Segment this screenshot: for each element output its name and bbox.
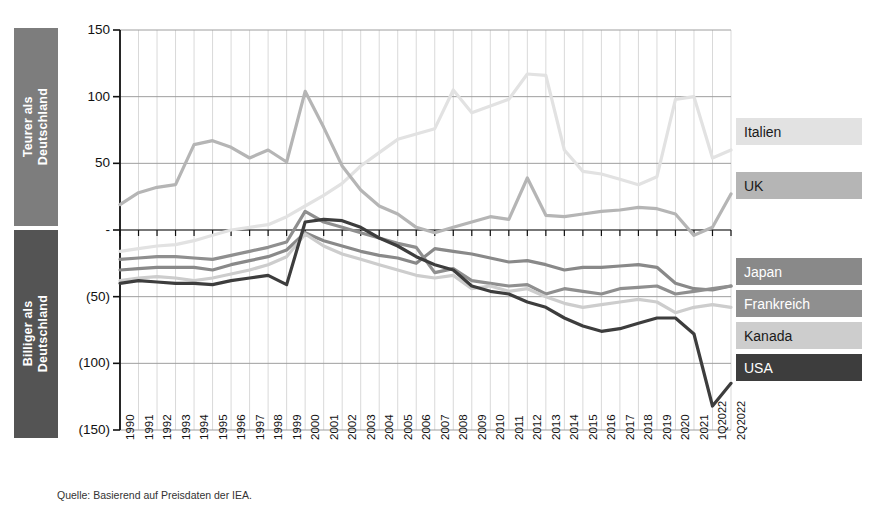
legend-item-frankreich[interactable]: Frankreich — [736, 290, 862, 317]
x-tick-label: 2007 — [440, 414, 451, 440]
x-tick-label: 2Q2022 — [736, 401, 747, 440]
x-tick-label: 2010 — [495, 414, 506, 440]
x-tick-label: 2006 — [421, 414, 432, 440]
x-tick-label: 1999 — [292, 414, 303, 440]
x-tick-label: 2009 — [477, 414, 488, 440]
x-tick-label: 1994 — [199, 414, 210, 440]
legend-item-label: USA — [744, 360, 773, 376]
legend-item-japan[interactable]: Japan — [736, 258, 862, 285]
source-note: Quelle: Basierend auf Preisdaten der IEA… — [57, 489, 252, 501]
x-tick-label: 1Q2022 — [717, 401, 728, 440]
y-tick-label: - — [58, 223, 110, 236]
x-tick-label: 2020 — [680, 414, 691, 440]
x-tick-label: 2017 — [625, 414, 636, 440]
y-tick-label: 50 — [58, 156, 110, 169]
x-tick-label: 1996 — [236, 414, 247, 440]
x-tick-label: 2013 — [551, 414, 562, 440]
legend-item-label: Japan — [744, 264, 782, 280]
legend-item-label: Kanada — [744, 328, 792, 344]
y-tick-label: (50) — [58, 290, 110, 303]
legend-item-italien[interactable]: Italien — [736, 118, 862, 145]
x-tick-label: 2000 — [310, 414, 321, 440]
y-tick-label: (150) — [58, 423, 110, 436]
legend-item-label: Italien — [744, 124, 781, 140]
x-tick-label: 1997 — [255, 414, 266, 440]
y-tick-label: 100 — [58, 90, 110, 103]
x-tick-label: 2014 — [569, 414, 580, 440]
x-tick-label: 2005 — [403, 414, 414, 440]
x-tick-label: 1993 — [181, 414, 192, 440]
plot-area: 15010050-(50)(100)(150) 1990199119921993… — [0, 0, 876, 513]
price-comparison-figure: Teurer als Deutschland Billiger als Deut… — [0, 0, 876, 513]
x-tick-label: 2021 — [699, 414, 710, 440]
y-tick-label: (100) — [58, 356, 110, 369]
x-tick-label: 1991 — [144, 414, 155, 440]
y-tick-label: 150 — [58, 23, 110, 36]
x-tick-label: 2008 — [458, 414, 469, 440]
x-tick-label: 2012 — [532, 414, 543, 440]
x-tick-label: 1998 — [273, 414, 284, 440]
x-tick-label: 2004 — [384, 414, 395, 440]
x-tick-label: 1995 — [218, 414, 229, 440]
x-tick-label: 1990 — [125, 414, 136, 440]
x-tick-label: 2018 — [643, 414, 654, 440]
x-tick-label: 2011 — [514, 415, 525, 440]
legend-item-usa[interactable]: USA — [736, 354, 862, 381]
x-tick-label: 2001 — [329, 414, 340, 440]
x-tick-label: 2015 — [588, 414, 599, 440]
legend-item-label: UK — [744, 178, 763, 194]
x-tick-label: 2019 — [662, 414, 673, 440]
x-tick-label: 2003 — [366, 414, 377, 440]
x-tick-label: 2002 — [347, 414, 358, 440]
data-series — [120, 74, 731, 406]
x-tick-label: 1992 — [162, 414, 173, 440]
legend-item-label: Frankreich — [744, 296, 810, 312]
legend-item-kanada[interactable]: Kanada — [736, 322, 862, 349]
legend-item-uk[interactable]: UK — [736, 172, 862, 199]
x-tick-label: 2016 — [606, 414, 617, 440]
